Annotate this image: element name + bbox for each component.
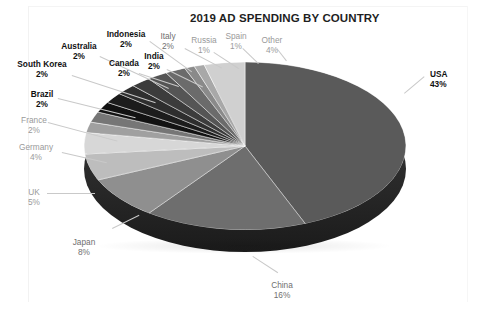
page-frame-top <box>28 6 468 7</box>
pie-label-uk: UK 5% <box>20 188 48 208</box>
leader-line-china <box>252 256 278 273</box>
pie-label-uk-percent: 5% <box>20 198 48 208</box>
pie-label-italy: Italy 2% <box>155 32 181 52</box>
pie-label-brazil-percent: 2% <box>22 100 62 110</box>
pie-label-france: France 2% <box>12 116 56 136</box>
pie-top-face <box>84 62 406 230</box>
chart-title: 2019 AD SPENDING BY COUNTRY <box>190 12 430 24</box>
pie-label-china: China 16% <box>262 281 302 301</box>
pie-label-germany: Germany 4% <box>8 143 64 163</box>
pie-label-usa: USA 43% <box>430 70 448 90</box>
pie-label-other: Other 4% <box>258 36 286 56</box>
pie-label-russia: Russia 1% <box>188 36 220 56</box>
pie-label-canada-percent: 2% <box>105 69 143 79</box>
pie-label-brazil: Brazil 2% <box>22 90 62 110</box>
pie-label-australia: Australia 2% <box>55 42 103 62</box>
pie-label-spain-percent: 1% <box>222 42 250 52</box>
pie-slices <box>84 62 406 230</box>
pie-label-japan: Japan 8% <box>62 238 106 258</box>
pie-label-france-percent: 2% <box>12 126 56 136</box>
leader-line-uk <box>47 193 95 194</box>
pie-label-china-percent: 16% <box>262 291 302 301</box>
pie-label-south-korea-percent: 2% <box>10 70 74 80</box>
pie-label-indonesia-percent: 2% <box>100 40 152 50</box>
pie-label-other-percent: 4% <box>258 46 286 56</box>
leader-line-usa <box>404 76 425 93</box>
pie-label-usa-percent: 43% <box>430 80 448 90</box>
pie-label-south-korea: South Korea 2% <box>10 60 74 80</box>
pie-label-indonesia: Indonesia 2% <box>100 30 152 50</box>
pie-label-australia-percent: 2% <box>55 52 103 62</box>
pie-drop-shadow <box>94 238 394 254</box>
pie-label-india-percent: 2% <box>140 62 168 72</box>
pie-label-russia-percent: 1% <box>188 46 220 56</box>
pie-label-italy-percent: 2% <box>155 42 181 52</box>
pie-label-germany-percent: 4% <box>8 153 64 163</box>
pie-label-japan-percent: 8% <box>62 248 106 258</box>
pie-chart-3d <box>84 62 406 252</box>
figure-canvas: 2019 AD SPENDING BY COUNTRY USA 43% Chin… <box>0 0 486 321</box>
pie-label-canada: Canada 2% <box>105 59 143 79</box>
page-frame-right <box>467 6 468 302</box>
pie-label-india: India 2% <box>140 52 168 72</box>
pie-label-spain: Spain 1% <box>222 32 250 52</box>
